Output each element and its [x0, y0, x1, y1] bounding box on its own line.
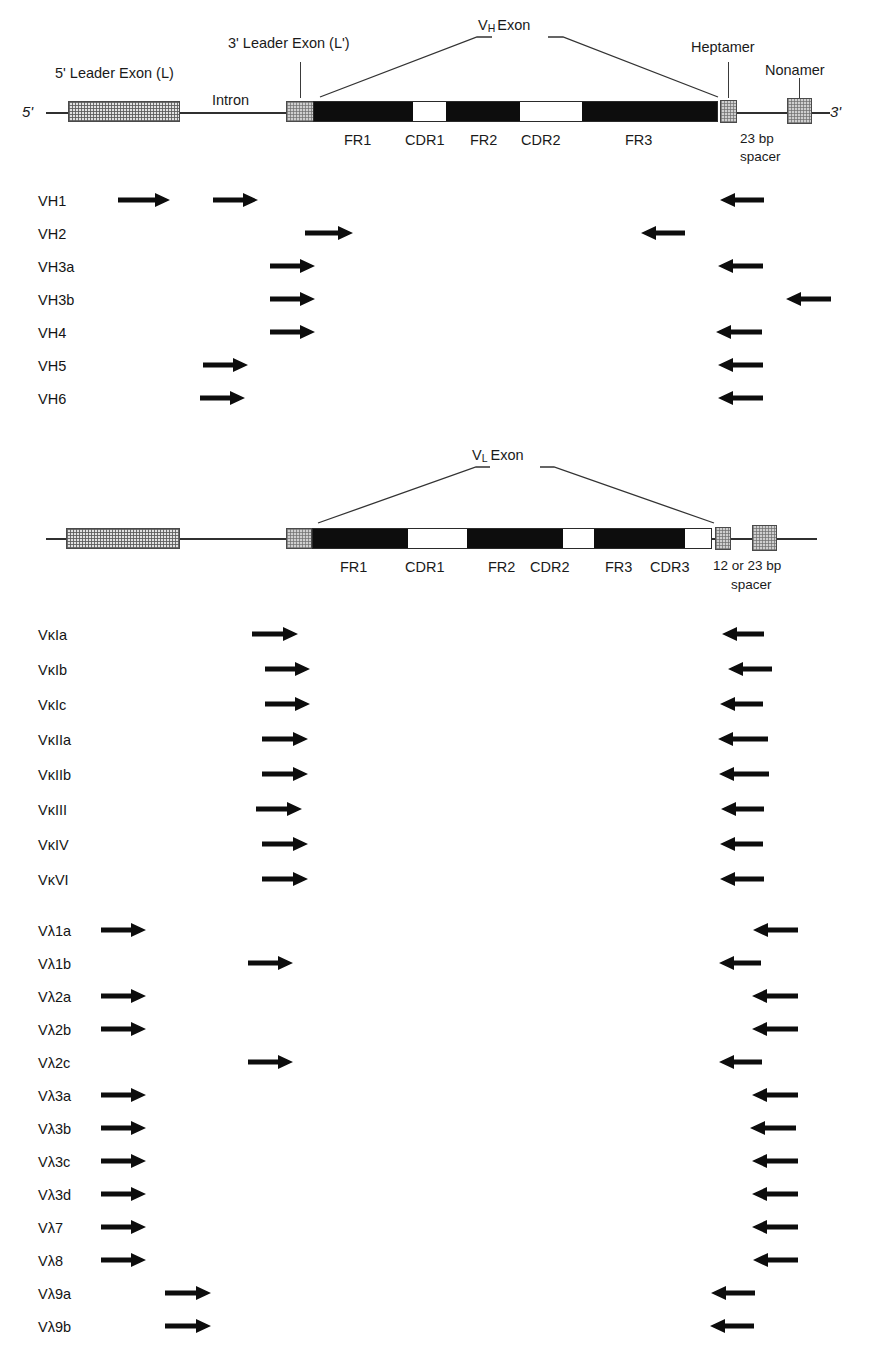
- forward-primer-arrow: [256, 801, 302, 817]
- reverse-primer-arrow: [718, 731, 768, 747]
- primer-row: VκIV: [0, 836, 877, 856]
- light-segment-fr3: [594, 528, 685, 549]
- primer-row-label: VH2: [38, 227, 66, 242]
- forward-primer-arrow: [118, 192, 170, 208]
- primer-row-label: VκIIa: [38, 733, 71, 748]
- reverse-primer-arrow: [786, 291, 831, 307]
- forward-primer-arrow: [248, 955, 293, 971]
- light-backbone-left: [46, 538, 68, 540]
- primer-row-label: VH6: [38, 392, 66, 407]
- forward-primer-arrow: [248, 1054, 293, 1070]
- backbone-intron: [178, 112, 288, 114]
- light-segment-label-cdr3: CDR3: [650, 560, 689, 575]
- primer-row: Vλ3a: [0, 1087, 877, 1107]
- primer-row: Vλ3d: [0, 1186, 877, 1206]
- primer-row-label: VH3a: [38, 260, 74, 275]
- primer-row: Vλ9b: [0, 1318, 877, 1338]
- segment-fr1: [313, 101, 413, 122]
- nonamer-tick: [799, 78, 800, 98]
- forward-primer-arrow: [270, 291, 315, 307]
- forward-primer-arrow: [101, 922, 146, 938]
- primer-row: Vλ2b: [0, 1021, 877, 1041]
- three-prime-leader-exon-box: [286, 101, 314, 122]
- light-three-prime-leader-exon-box: [286, 528, 312, 549]
- primer-row-label: VH1: [38, 194, 66, 209]
- light-heptamer-box: [715, 527, 731, 550]
- primer-row: VH2: [0, 225, 877, 245]
- segment-cdr1: [413, 101, 446, 122]
- vl-exon-bracket: [318, 464, 718, 526]
- light-chain-gene-map: VLExon FR1 CDR1 FR2 CDR2 FR3 CDR3 12 or …: [0, 440, 877, 605]
- primer-row-label: VκIa: [38, 628, 67, 643]
- forward-primer-arrow: [101, 1153, 146, 1169]
- primer-row-label: Vλ7: [38, 1221, 63, 1236]
- five-prime-label: 5': [22, 104, 33, 119]
- primer-row: VκIIa: [0, 731, 877, 751]
- light-segment-label-cdr1: CDR1: [405, 560, 444, 575]
- reverse-primer-arrow: [720, 871, 764, 887]
- primer-row-label: VκIII: [38, 803, 67, 818]
- forward-primer-arrow: [262, 871, 308, 887]
- vh-exon-label: VHExon: [478, 18, 530, 34]
- primer-row: Vλ7: [0, 1219, 877, 1239]
- forward-primer-arrow: [270, 258, 315, 274]
- reverse-primer-arrow: [752, 1153, 798, 1169]
- reverse-primer-arrow: [753, 1252, 798, 1268]
- forward-primer-arrow: [262, 766, 308, 782]
- primer-row: VκIa: [0, 626, 877, 646]
- forward-primer-arrow: [165, 1318, 211, 1334]
- five-prime-leader-exon-label: 5' Leader Exon (L): [55, 66, 174, 81]
- forward-primer-arrow: [305, 225, 353, 241]
- reverse-primer-arrow: [720, 696, 763, 712]
- backbone-left: [46, 112, 70, 114]
- reverse-primer-arrow: [728, 661, 772, 677]
- primer-row-label: VκVI: [38, 873, 69, 888]
- light-nonamer-box: [752, 525, 777, 551]
- heptamer-label: Heptamer: [691, 40, 755, 55]
- primer-row: Vλ2a: [0, 988, 877, 1008]
- primer-row-label: Vλ1a: [38, 924, 71, 939]
- segment-label-fr1: FR1: [344, 133, 371, 148]
- primer-row: Vλ9a: [0, 1285, 877, 1305]
- light-backbone-right: [775, 538, 817, 540]
- primer-row: Vλ3b: [0, 1120, 877, 1140]
- backbone-right: [810, 112, 830, 114]
- nonamer-label: Nonamer: [765, 63, 825, 78]
- reverse-primer-arrow: [718, 390, 763, 406]
- primer-row-label: Vλ2c: [38, 1056, 70, 1071]
- primer-row-label: VκIb: [38, 663, 67, 678]
- primer-row-label: VκIIb: [38, 768, 71, 783]
- primer-row: VH1: [0, 192, 877, 212]
- light-segment-cdr1: [408, 528, 467, 549]
- primer-row-label: Vλ3b: [38, 1122, 71, 1137]
- reverse-primer-arrow: [753, 922, 798, 938]
- reverse-primer-arrow: [752, 1087, 798, 1103]
- forward-primer-arrow: [101, 1219, 146, 1235]
- spacer-label-line1: 23 bp: [740, 132, 774, 146]
- primer-row-label: Vλ2b: [38, 1023, 71, 1038]
- vh-exon-label-exon: Exon: [497, 17, 530, 33]
- primer-row: VH3b: [0, 291, 877, 311]
- forward-primer-arrow: [262, 836, 308, 852]
- reverse-primer-arrow: [641, 225, 685, 241]
- forward-primer-arrow: [101, 1087, 146, 1103]
- forward-primer-arrow: [265, 661, 310, 677]
- segment-label-fr2: FR2: [470, 133, 497, 148]
- vl-exon-label-v: V: [472, 447, 482, 463]
- primer-row-label: Vλ1b: [38, 957, 71, 972]
- segment-cdr2: [520, 101, 582, 122]
- primer-row-label: Vλ3a: [38, 1089, 71, 1104]
- vh-exon-label-v: V: [478, 17, 488, 33]
- primer-row: Vλ2c: [0, 1054, 877, 1074]
- primer-row-label: Vλ3d: [38, 1188, 71, 1203]
- nonamer-box: [787, 98, 812, 124]
- reverse-primer-arrow: [710, 1318, 754, 1334]
- forward-primer-arrow: [270, 324, 315, 340]
- intron-label: Intron: [212, 93, 249, 108]
- light-segment-label-fr2: FR2: [488, 560, 515, 575]
- figure-canvas: 5' 3' 5' Lea: [0, 0, 877, 1360]
- forward-primer-arrow: [101, 988, 146, 1004]
- primer-row: Vλ1a: [0, 922, 877, 942]
- primer-row-label: Vλ2a: [38, 990, 71, 1005]
- reverse-primer-arrow: [719, 1054, 762, 1070]
